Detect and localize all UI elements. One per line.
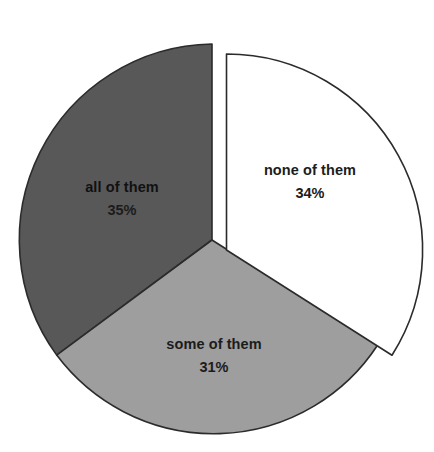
slice-label-all-of-them-name: all of them [85,179,159,195]
slice-label-none-of-them-name: none of them [264,162,356,178]
slice-label-none-of-them-value: 34% [295,185,324,201]
pie-chart-figure: none of them 34% some of them 31% all of… [0,0,434,452]
pie-chart-canvas: none of them 34% some of them 31% all of… [0,0,434,452]
slice-label-all-of-them-value: 35% [107,202,136,218]
slice-label-some-of-them-name: some of them [166,336,261,352]
slice-label-some-of-them-value: 31% [199,359,228,375]
